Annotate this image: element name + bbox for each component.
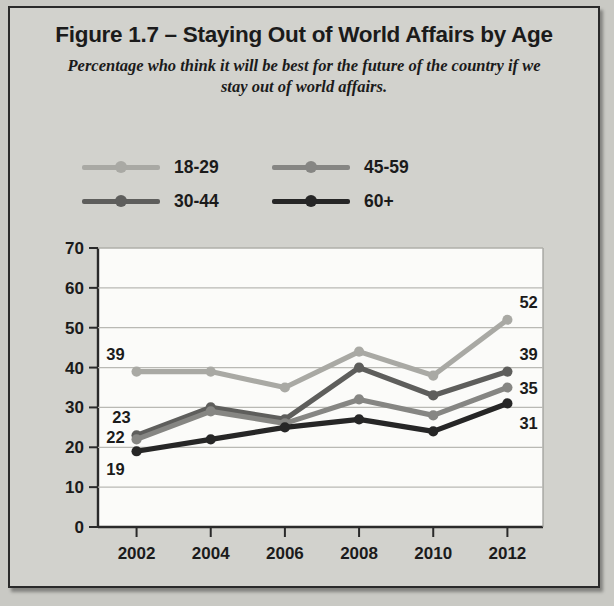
line-chart: 3952233922351931 20022004200620082010201…	[10, 234, 598, 584]
legend-swatch-30-44	[82, 199, 160, 204]
legend-label-30-44: 30-44	[174, 191, 219, 212]
legend-swatch-45-59	[272, 165, 350, 170]
y-tick-label: 0	[75, 518, 84, 537]
point-value-label: 19	[106, 460, 124, 478]
y-axis-ticks: 706050403020100	[65, 239, 98, 537]
y-tick-label: 10	[65, 478, 84, 497]
x-tick-label: 2004	[192, 544, 230, 563]
plot-container: 3952233922351931 20022004200620082010201…	[10, 234, 598, 584]
legend-marker-18-29	[115, 161, 127, 173]
legend-label-18-29: 18-29	[174, 157, 219, 178]
legend-swatch-18-29	[82, 165, 160, 170]
y-tick-label: 70	[65, 239, 84, 258]
x-tick-label: 2008	[340, 544, 378, 563]
data-point	[354, 414, 364, 424]
data-point	[428, 426, 438, 436]
chart-legend: 18-29 45-59 30-44 60+	[82, 150, 482, 218]
data-point	[354, 394, 364, 404]
data-point	[280, 382, 290, 392]
figure-subtitle: Percentage who think it will be best for…	[58, 55, 550, 97]
data-point	[206, 434, 216, 444]
data-point	[428, 390, 438, 400]
point-value-label: 31	[519, 414, 537, 432]
data-point	[428, 410, 438, 420]
point-value-label: 39	[519, 345, 537, 363]
x-tick-label: 2002	[118, 544, 156, 563]
point-value-label: 52	[519, 293, 537, 311]
figure-panel: Figure 1.7 – Staying Out of World Affair…	[8, 6, 600, 588]
legend-marker-45-59	[305, 161, 317, 173]
data-point	[131, 366, 141, 376]
data-point	[354, 347, 364, 357]
data-point	[206, 366, 216, 376]
legend-marker-60plus	[305, 195, 317, 207]
legend-marker-30-44	[115, 195, 127, 207]
axis-layer	[98, 248, 543, 527]
legend-item-30-44[interactable]: 30-44	[82, 191, 272, 212]
y-tick-label: 60	[65, 279, 84, 298]
figure-title: Figure 1.7 – Staying Out of World Affair…	[28, 22, 580, 48]
x-tick-label: 2006	[266, 544, 304, 563]
data-point	[502, 366, 512, 376]
x-tick-label: 2010	[414, 544, 452, 563]
legend-item-60plus[interactable]: 60+	[272, 191, 462, 212]
y-tick-label: 30	[65, 398, 84, 417]
data-point	[428, 370, 438, 380]
legend-label-45-59: 45-59	[364, 157, 409, 178]
legend-swatch-60plus	[272, 199, 350, 204]
data-point	[502, 382, 512, 392]
point-value-label: 39	[106, 345, 124, 363]
point-value-label: 23	[112, 408, 130, 426]
legend-item-45-59[interactable]: 45-59	[272, 157, 462, 178]
data-point	[280, 422, 290, 432]
data-point	[354, 362, 364, 372]
y-tick-label: 40	[65, 359, 84, 378]
y-tick-label: 50	[65, 319, 84, 338]
x-axis-ticks: 200220042006200820102012	[118, 527, 527, 563]
point-value-label: 22	[106, 428, 124, 446]
legend-item-18-29[interactable]: 18-29	[82, 157, 272, 178]
x-tick-label: 2012	[488, 544, 526, 563]
point-value-label: 35	[519, 379, 537, 397]
data-point	[502, 315, 512, 325]
data-point	[131, 446, 141, 456]
data-point	[131, 434, 141, 444]
y-tick-label: 20	[65, 438, 84, 457]
data-point	[502, 398, 512, 408]
data-point	[206, 406, 216, 416]
legend-label-60plus: 60+	[364, 191, 394, 212]
